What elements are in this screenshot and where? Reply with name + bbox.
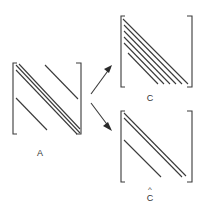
- matrix-c-subdiagonal: [124, 43, 164, 84]
- matrix-c-hat-label: C: [147, 194, 154, 203]
- arrowhead-icon: [104, 65, 112, 73]
- diagram-canvas: [0, 0, 201, 210]
- matrix-c-right-bracket: [187, 16, 192, 87]
- matrix-c-left-bracket: [121, 16, 125, 87]
- matrix-a-diagonal: [16, 70, 77, 134]
- matrix-c-hat-right-bracket: [187, 111, 192, 182]
- arrowhead-icon: [103, 122, 112, 131]
- matrix-c-hat-diagonal: [124, 113, 186, 176]
- matrix-c-hat-left-bracket: [121, 111, 125, 182]
- matrix-a-diagonal: [16, 65, 80, 133]
- matrix-a-label: A: [37, 149, 43, 158]
- matrix-a: [13, 63, 81, 134]
- matrix-c-subdiagonal: [124, 37, 170, 84]
- matrix-c: [121, 16, 192, 87]
- matrix-c-label: C: [147, 94, 154, 103]
- matrix-c-hat-subdiagonal: [124, 118, 182, 177]
- matrix-a-upper-offdiagonal: [45, 65, 78, 99]
- arrow-a-to-c: [91, 68, 110, 94]
- matrix-c-subdiagonal: [124, 25, 182, 84]
- matrix-a-lower-offdiagonal: [16, 98, 47, 130]
- matrix-c-subdiagonal: [128, 53, 158, 84]
- matrix-c-hat: [121, 111, 192, 182]
- matrix-a-diagonal: [19, 64, 80, 129]
